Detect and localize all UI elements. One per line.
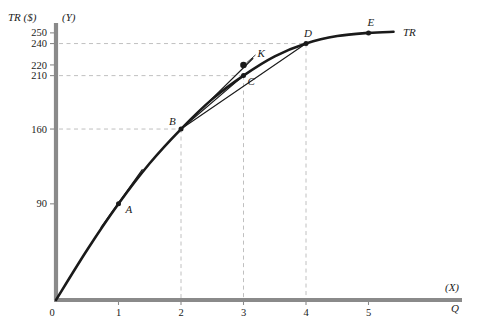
y-axis-variable: (Y)	[62, 11, 76, 24]
x-axis-title: Q	[451, 302, 459, 314]
x-tick-label-2: 2	[178, 307, 183, 318]
y-axis-title: TR ($)	[8, 11, 37, 24]
point-label-D: D	[303, 27, 312, 39]
y-tick-label-250: 250	[31, 27, 47, 38]
point-marker-A	[116, 201, 121, 206]
point-marker-E	[366, 30, 371, 35]
chart-canvas: TR ($)(Y)(X)Q25024022021016090012345ABCK…	[0, 0, 491, 333]
y-tick-label-210: 210	[31, 70, 47, 81]
tangent-and-chord-lines	[101, 44, 306, 228]
x-tick-label-1: 1	[116, 307, 121, 318]
point-label-C: C	[248, 75, 256, 87]
x-tick-label-4: 4	[303, 307, 309, 318]
point-marker-D	[304, 41, 309, 46]
y-tick-label-220: 220	[31, 60, 47, 71]
y-tick-label-240: 240	[31, 38, 47, 49]
point-label-K: K	[257, 47, 266, 59]
tr-curve-figure: TR ($)(Y)(X)Q25024022021016090012345ABCK…	[0, 0, 491, 333]
x-axis-variable: (X)	[445, 281, 459, 294]
point-label-A: A	[125, 203, 133, 215]
point-marker-B	[179, 127, 184, 132]
tick-marks	[50, 33, 369, 305]
point-marker-C	[241, 73, 246, 78]
x-tick-label-5: 5	[366, 307, 371, 318]
tr-curve	[56, 32, 394, 300]
point-label-B: B	[169, 115, 176, 127]
origin-label: 0	[49, 307, 54, 318]
gridlines	[59, 44, 306, 298]
data-point-markers	[116, 30, 371, 206]
x-tick-label-3: 3	[241, 307, 246, 318]
tr-curve-label: TR	[403, 26, 416, 38]
y-tick-label-90: 90	[37, 198, 48, 209]
point-label-E: E	[367, 16, 375, 28]
chart-text-labels: TR ($)(Y)(X)Q25024022021016090012345ABCK…	[8, 11, 459, 318]
y-tick-label-160: 160	[31, 124, 47, 135]
point-marker-K	[240, 62, 247, 69]
